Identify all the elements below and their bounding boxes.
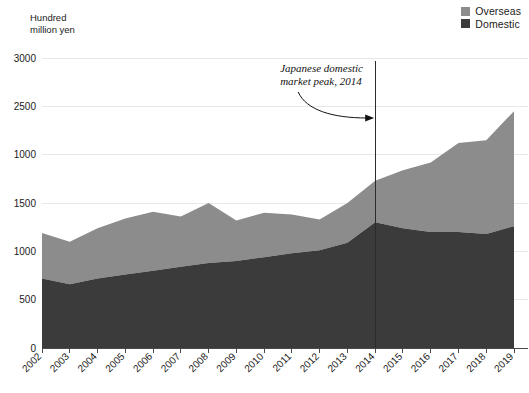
y-tick-label: 1000 [14, 149, 37, 160]
area-series-group [42, 111, 514, 348]
x-tick-label: 2013 [325, 350, 349, 374]
y-tick-label: 3000 [14, 53, 37, 64]
annotation-arrow-curve [298, 92, 367, 118]
x-tick-label: 2010 [242, 350, 266, 374]
x-tick-label: 2014 [353, 350, 377, 374]
x-tick-label: 2019 [492, 350, 516, 374]
x-tick-label: 2007 [159, 350, 183, 374]
x-tick-label: 2017 [436, 350, 460, 374]
annotation-line: market peak, 2014 [280, 75, 362, 87]
plot-area: 300025001000150010005000 200220032004200… [0, 0, 529, 393]
y-tick-labels: 300025001000150010005000 [14, 53, 37, 354]
y-tick-label: 1000 [14, 246, 37, 257]
chart-svg: 300025001000150010005000 200220032004200… [0, 0, 529, 393]
x-tick-label: 2004 [75, 350, 99, 374]
x-tick-label: 2002 [20, 350, 44, 374]
x-tick-labels: 2002200320042005200620072008200920102011… [20, 350, 516, 374]
x-tick-label: 2006 [131, 350, 155, 374]
annotation-arrowhead [365, 115, 374, 122]
x-tick-label: 2003 [48, 350, 72, 374]
x-tick-label: 2018 [464, 350, 488, 374]
x-tick-label: 2005 [103, 350, 127, 374]
x-tick-label: 2008 [186, 350, 210, 374]
y-tick-label: 500 [19, 294, 36, 305]
y-tick-label: 1500 [14, 198, 37, 209]
x-tick-label: 2012 [298, 350, 322, 374]
x-tick-label: 2015 [381, 350, 405, 374]
stacked-area-chart: Overseas Domestic Hundred million yen 30… [0, 0, 529, 393]
x-tick-label: 2009 [214, 350, 238, 374]
annotation-line: Japanese domestic [280, 62, 363, 74]
y-tick-label: 2500 [14, 101, 37, 112]
annotation-group: Japanese domesticmarket peak, 2014 [280, 62, 374, 122]
x-tick-label: 2016 [409, 350, 433, 374]
x-tick-label: 2011 [270, 350, 293, 373]
